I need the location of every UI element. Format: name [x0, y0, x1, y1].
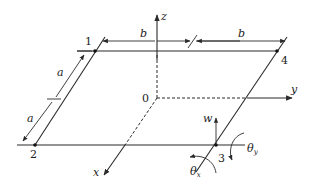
edge-4-3: [196, 37, 287, 172]
dimension-label-b-left: b: [140, 27, 147, 40]
theta-y-rotation-arrow: [231, 133, 245, 160]
node-4-label: 4: [281, 54, 288, 67]
dimension-tick-b: [188, 35, 197, 48]
w-label: w: [203, 112, 213, 125]
node-1-marker: [93, 49, 97, 53]
x-axis: [104, 145, 125, 175]
x-axis-label: x: [93, 166, 100, 179]
plate-element-diagram: b b a a z y x 0 1 2 3 4 w: [0, 0, 310, 189]
dimension-b: b b: [103, 27, 285, 48]
node-2-marker: [33, 143, 37, 147]
node-4-marker: [275, 49, 279, 53]
edge-1-2: [35, 37, 105, 145]
dimension-a: a a: [23, 51, 92, 141]
dimension-label-b-right: b: [238, 27, 245, 40]
x-axis-hidden: [125, 98, 157, 145]
dimension-label-a-upper: a: [57, 66, 64, 79]
y-axis-label: y: [290, 83, 298, 96]
node-1-label: 1: [85, 35, 92, 48]
dimension-label-a-lower: a: [27, 112, 34, 125]
z-axis-label: z: [160, 10, 167, 23]
theta-y-label: θy: [247, 142, 259, 156]
origin-label: 0: [142, 92, 149, 105]
node-2-label: 2: [30, 148, 37, 161]
coordinate-axes: z y x 0: [93, 10, 298, 179]
node-3-label: 3: [218, 152, 225, 165]
